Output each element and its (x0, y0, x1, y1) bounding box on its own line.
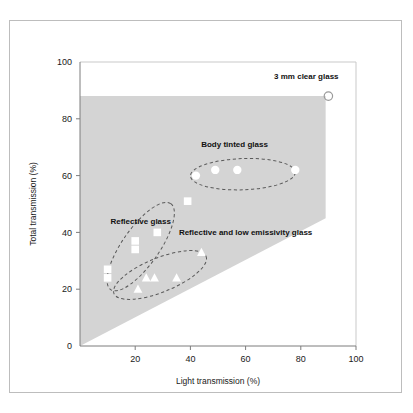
scatter-chart: 02040608010020406080100Light transmissio… (10, 21, 401, 392)
data-point-square (131, 246, 139, 254)
data-point-square (104, 274, 112, 282)
data-point-square (104, 266, 112, 274)
x-tick-label: 20 (130, 354, 140, 364)
annotation-label: Reflective and low emissivity glass (179, 228, 313, 237)
x-tick-label: 100 (348, 354, 363, 364)
y-tick-label: 100 (57, 57, 72, 67)
data-point-circle (233, 166, 241, 174)
data-point-circle (192, 171, 200, 179)
x-tick-label: 60 (241, 354, 251, 364)
data-point-square (153, 229, 161, 237)
y-axis-title: Total transmission (%) (28, 162, 38, 246)
data-point-square (184, 197, 192, 205)
chart-figure: 02040608010020406080100Light transmissio… (9, 20, 402, 393)
x-axis-title: Light transmission (%) (176, 376, 260, 386)
data-point-circle (211, 166, 219, 174)
annotation-label: 3 mm clear glass (274, 72, 339, 81)
x-tick-label: 80 (296, 354, 306, 364)
x-tick-label: 40 (185, 354, 195, 364)
annotation-label: Body tinted glass (201, 140, 268, 149)
y-tick-label: 0 (67, 341, 72, 351)
y-tick-label: 20 (62, 284, 72, 294)
data-point-square (131, 237, 139, 245)
y-tick-label: 80 (62, 114, 72, 124)
annotation-label: Reflective glass (110, 217, 171, 226)
y-tick-label: 60 (62, 171, 72, 181)
data-point-circle (291, 166, 299, 174)
y-tick-label: 40 (62, 228, 72, 238)
